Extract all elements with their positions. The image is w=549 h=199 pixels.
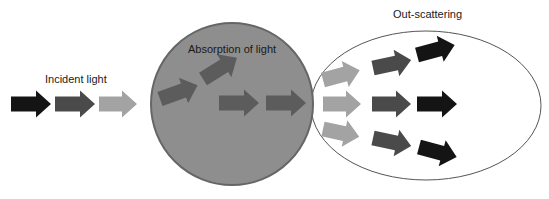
out-scattering-label: Out-scattering xyxy=(393,8,462,20)
incident-arrow-icon xyxy=(55,91,95,118)
incident-arrow-icon xyxy=(99,91,137,118)
incident-arrow-icon xyxy=(11,91,51,118)
absorption-label: Absorption of light xyxy=(188,43,276,55)
incident-light-label: Incident light xyxy=(45,73,107,85)
light-interaction-diagram xyxy=(0,0,549,199)
